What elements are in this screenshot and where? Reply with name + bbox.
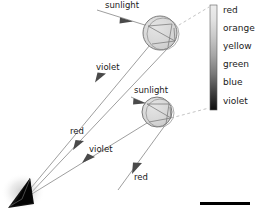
label-red-middle: red bbox=[70, 126, 84, 136]
spectrum-label-red: red bbox=[223, 5, 238, 15]
spectrum-label-green: green bbox=[223, 59, 249, 69]
spectrum-label-yellow: yellow bbox=[223, 41, 252, 51]
label-sunlight-lower: sunlight bbox=[134, 85, 169, 95]
label-violet-lower: violet bbox=[89, 144, 113, 154]
spectrum-bar bbox=[210, 5, 217, 110]
spectrum-gradient bbox=[210, 5, 217, 110]
label-red-lower: red bbox=[134, 172, 148, 182]
label-sunlight-upper: sunlight bbox=[105, 0, 140, 10]
spectrum-label-orange: orange bbox=[223, 23, 255, 33]
rainbow-formation-diagram: sunlight sunlight violet red violet red … bbox=[0, 0, 255, 211]
spectrum-label-violet: violet bbox=[223, 96, 248, 106]
spectrum-label-blue: blue bbox=[223, 77, 243, 87]
label-violet-upper: violet bbox=[96, 62, 120, 72]
footer-rule-bar bbox=[200, 202, 250, 205]
observer-eye bbox=[1, 173, 45, 211]
